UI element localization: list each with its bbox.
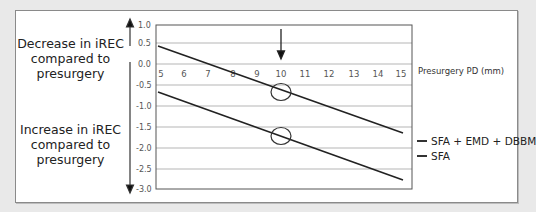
svg-text:7: 7	[205, 69, 210, 79]
legend-item-sfa-emd-dbbm: SFA + EMD + DBBM	[417, 135, 536, 147]
legend-label: SFA	[431, 150, 450, 162]
svg-text:-0.5: -0.5	[136, 81, 152, 90]
direction-arrows	[127, 19, 134, 193]
legend-item-sfa: SFA	[417, 150, 450, 162]
svg-text:11: 11	[300, 69, 311, 79]
y-tick-labels: 1.0 0.5 0.0 -0.5 -1.0 -1.5 -2.0 -2.5 -3.…	[136, 21, 152, 194]
svg-text:-2.0: -2.0	[136, 144, 152, 153]
legend-swatch	[417, 155, 427, 157]
svg-text:1.0: 1.0	[138, 21, 151, 30]
svg-text:12: 12	[324, 69, 335, 79]
svg-text:-1.5: -1.5	[136, 123, 152, 132]
series-line-sfa	[158, 92, 403, 180]
annotation-arrow	[278, 29, 285, 59]
gridlines	[156, 43, 412, 169]
svg-text:15: 15	[396, 69, 407, 79]
legend-swatch	[417, 140, 427, 142]
svg-text:10: 10	[276, 69, 287, 79]
svg-text:6: 6	[181, 69, 186, 79]
svg-text:-1.0: -1.0	[136, 102, 152, 111]
svg-text:9: 9	[254, 69, 259, 79]
down-arrow-icon	[278, 51, 285, 59]
svg-text:-3.0: -3.0	[136, 185, 152, 194]
svg-text:0.0: 0.0	[138, 60, 151, 69]
up-arrow-icon	[127, 19, 134, 27]
svg-text:5: 5	[158, 69, 163, 79]
svg-text:13: 13	[349, 69, 360, 79]
svg-text:-2.5: -2.5	[136, 165, 152, 174]
svg-text:14: 14	[373, 69, 384, 79]
legend-label: SFA + EMD + DBBM	[431, 135, 536, 147]
down-arrow-icon	[127, 185, 134, 193]
svg-text:0.5: 0.5	[138, 39, 151, 48]
x-tick-labels: 5 6 7 8 9 10 11 12 13 14 15	[158, 69, 406, 79]
x-axis-label: Presurgery PD (mm)	[418, 66, 504, 76]
plot-frame	[156, 25, 412, 189]
